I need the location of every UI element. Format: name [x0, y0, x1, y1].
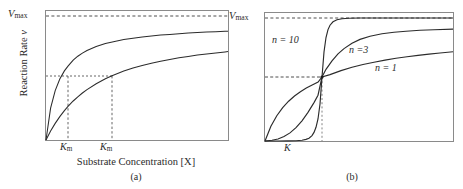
plot-frame-a	[46, 11, 229, 141]
x-tick-label-km-2: Km	[100, 142, 112, 153]
panel-caption-a: (a)	[38, 172, 234, 182]
plot-area-b	[264, 12, 454, 142]
panel-caption-b: (b)	[254, 172, 450, 182]
vmax-label-b: Vmax	[229, 11, 248, 22]
panel-a: Vmax Reaction Rate ν Km Km Substrate Con…	[0, 0, 232, 189]
y-axis-label-a: Reaction Rate ν	[19, 15, 30, 111]
km2-subscript: m	[107, 145, 113, 153]
panel-b: Vmax n = 10 n =3 n = 1 K (b)	[232, 0, 463, 189]
y-axis-text: Reaction Rate	[18, 37, 29, 96]
enzyme-kinetics-figure: Vmax Reaction Rate ν Km Km Substrate Con…	[0, 0, 463, 189]
curve-label-n3: n =3	[349, 45, 368, 55]
x-tick-label-k: K	[284, 143, 291, 153]
plot-area-a	[45, 10, 229, 141]
km2-symbol: K	[100, 141, 107, 152]
halfmax-crossing-point	[320, 75, 323, 78]
x-axis-label-a: Substrate Concentration [X]	[38, 157, 234, 168]
curve-label-n1: n = 1	[375, 63, 397, 73]
km1-subscript: m	[67, 145, 73, 153]
km1-symbol: K	[60, 141, 67, 152]
nu-symbol: ν	[18, 30, 29, 35]
curve-label-n10: n = 10	[272, 35, 299, 45]
x-tick-label-km-1: Km	[60, 142, 72, 153]
vmax-subscript-b: max	[235, 13, 248, 22]
